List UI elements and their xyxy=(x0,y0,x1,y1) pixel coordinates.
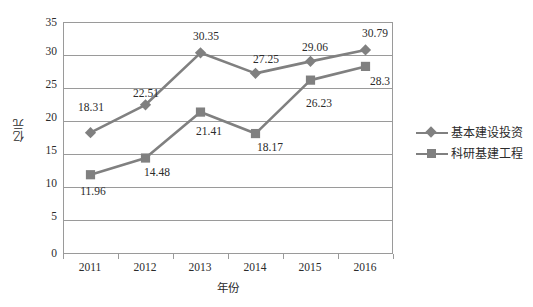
y-tick-label-15: 15 xyxy=(7,145,57,157)
y-tick-label-10: 10 xyxy=(7,178,57,190)
data-label: 30.79 xyxy=(348,27,402,39)
data-label: 21.41 xyxy=(182,125,236,137)
data-point xyxy=(250,68,261,79)
x-tick-2 xyxy=(173,254,174,259)
x-tick-label-2014: 2014 xyxy=(225,261,285,274)
data-label: 29.06 xyxy=(288,41,342,53)
y-tick-label-5: 5 xyxy=(7,211,57,223)
data-label: 30.35 xyxy=(179,30,233,42)
data-label: 28.3 xyxy=(353,75,407,87)
x-tick-label-2015: 2015 xyxy=(280,261,340,274)
x-axis-title: 年份 xyxy=(0,282,456,295)
legend-item-basic-construction-investment[interactable]: 基本建设投资 xyxy=(416,122,533,143)
y-tick-label-25: 25 xyxy=(7,79,57,91)
x-tick-0 xyxy=(63,254,64,259)
data-point xyxy=(361,62,370,71)
y-tick-label-35: 35 xyxy=(7,17,57,29)
series-plot xyxy=(63,22,393,254)
data-label: 11.96 xyxy=(66,185,120,197)
chart-legend: 基本建设投资 科研基建工程 xyxy=(416,122,533,164)
data-label: 18.31 xyxy=(64,101,118,113)
data-point xyxy=(196,107,205,116)
data-point xyxy=(306,76,315,85)
data-point xyxy=(85,127,96,138)
data-point xyxy=(305,56,316,67)
x-tick-5 xyxy=(338,254,339,259)
y-axis-title: 亿元 xyxy=(13,118,25,142)
series-line-research-infrastructure-project xyxy=(91,66,366,174)
y-axis: 35 30 25 20 15 10 5 0 xyxy=(0,0,57,307)
legend-label: 基本建设投资 xyxy=(448,126,523,140)
x-tick-label-2016: 2016 xyxy=(335,261,395,274)
x-tick-6 xyxy=(393,254,394,259)
data-point xyxy=(360,44,371,55)
x-tick-label-2013: 2013 xyxy=(170,261,230,274)
data-point xyxy=(251,129,260,138)
x-tick-label-2012: 2012 xyxy=(115,261,175,274)
data-label: 26.23 xyxy=(292,97,346,109)
series-markers-research-infrastructure-project xyxy=(86,62,370,180)
data-label: 18.17 xyxy=(243,141,297,153)
data-point xyxy=(86,170,95,179)
data-point xyxy=(141,153,150,162)
x-tick-1 xyxy=(118,254,119,259)
x-tick-3 xyxy=(228,254,229,259)
diamond-marker-icon xyxy=(416,126,448,140)
y-tick-label-30: 30 xyxy=(7,46,57,58)
legend-item-research-infrastructure-project[interactable]: 科研基建工程 xyxy=(416,143,533,164)
data-label: 22.51 xyxy=(119,87,173,99)
data-label: 27.25 xyxy=(239,53,293,65)
line-chart: 35 30 25 20 15 10 5 0 亿元 18.31 22.51 30.… xyxy=(0,0,533,307)
y-tick-label-0: 0 xyxy=(7,248,57,260)
x-tick-4 xyxy=(283,254,284,259)
data-label: 14.48 xyxy=(130,166,184,178)
x-tick-label-2011: 2011 xyxy=(60,261,120,274)
square-marker-icon xyxy=(416,147,448,161)
legend-label: 科研基建工程 xyxy=(448,147,523,161)
